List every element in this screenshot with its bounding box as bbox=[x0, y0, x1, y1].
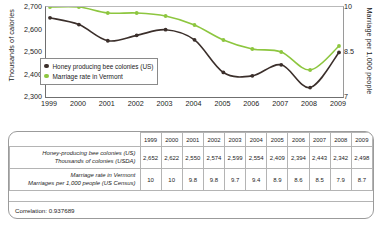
data-point bbox=[135, 33, 139, 37]
legend-label: Honey producing bee colonies (US) bbox=[53, 63, 154, 70]
table-cell: 9.8 bbox=[203, 169, 224, 191]
data-table: 1999200020012002200320042005200620072008… bbox=[9, 132, 373, 191]
legend-item-bee-colonies: Honey producing bee colonies (US) bbox=[44, 61, 153, 71]
legend-label: Marriage rate in Vermont bbox=[53, 73, 123, 80]
x-tick-label: 2007 bbox=[272, 99, 288, 108]
table-cell: 8.7 bbox=[351, 169, 372, 191]
table-cell: 2,498 bbox=[351, 147, 372, 169]
table-row: Honey-producing bee colonies (US)Thousan… bbox=[10, 147, 373, 169]
legend-dot-icon bbox=[44, 64, 49, 69]
table-year-header: 2004 bbox=[246, 133, 267, 147]
x-tick-label: 2008 bbox=[301, 99, 317, 108]
table-year-header: 2001 bbox=[182, 133, 203, 147]
table-cell: 2,550 bbox=[182, 147, 203, 169]
table-cell: 8.6 bbox=[288, 169, 309, 191]
x-tick-label: 2004 bbox=[186, 99, 202, 108]
data-point bbox=[77, 7, 81, 9]
left-tick-label: 2,300 bbox=[24, 92, 42, 101]
table-cell: 8.5 bbox=[309, 169, 330, 191]
data-point bbox=[164, 28, 168, 32]
data-point bbox=[308, 86, 312, 90]
right-axis-ticks: 78.510 bbox=[344, 0, 370, 100]
right-tick-label: 10 bbox=[344, 2, 352, 11]
table-year-header: 2009 bbox=[351, 133, 372, 147]
data-point bbox=[135, 11, 139, 15]
table-header-row: 1999200020012002200320042005200620072008… bbox=[10, 133, 373, 147]
left-tick-label: 2,600 bbox=[24, 25, 42, 34]
table-row-label: Honey-producing bee colonies (US)Thousan… bbox=[10, 147, 141, 169]
data-point bbox=[222, 71, 226, 75]
data-point bbox=[48, 7, 52, 9]
left-tick-label: 2,700 bbox=[24, 2, 42, 11]
x-tick-label: 2003 bbox=[157, 99, 173, 108]
data-point bbox=[164, 14, 168, 18]
data-point bbox=[250, 47, 254, 51]
data-point bbox=[193, 38, 197, 42]
data-table-card: 1999200020012002200320042005200620072008… bbox=[8, 131, 374, 219]
table-cell: 2,652 bbox=[140, 147, 161, 169]
data-point bbox=[106, 39, 110, 43]
table-year-header: 2003 bbox=[225, 133, 246, 147]
data-point bbox=[48, 16, 52, 20]
x-tick-label: 2002 bbox=[128, 99, 144, 108]
correlation-chart: Thousands of calories Marriage per 1,000… bbox=[0, 0, 380, 124]
table-year-header: 2006 bbox=[288, 133, 309, 147]
legend-item-marriage-rate: Marriage rate in Vermont bbox=[44, 71, 153, 81]
chart-legend: Honey producing bee colonies (US) Marria… bbox=[40, 58, 158, 85]
table-year-header: 1999 bbox=[140, 133, 161, 147]
table-cell: 2,443 bbox=[309, 147, 330, 169]
left-tick-label: 2,500 bbox=[24, 47, 42, 56]
data-point bbox=[193, 23, 197, 27]
x-tick-label: 2001 bbox=[99, 99, 115, 108]
data-point bbox=[106, 11, 110, 15]
table-row: Marriage rate in VermontMarriages per 1,… bbox=[10, 169, 373, 191]
table-corner-cell bbox=[10, 133, 141, 147]
table-cell: 10 bbox=[140, 169, 161, 191]
table-cell: 2,574 bbox=[203, 147, 224, 169]
table-cell: 2,554 bbox=[246, 147, 267, 169]
data-point bbox=[77, 23, 81, 27]
x-tick-label: 2000 bbox=[70, 99, 86, 108]
data-point bbox=[279, 63, 283, 67]
table-cell: 9.7 bbox=[225, 169, 246, 191]
table-row-label: Marriage rate in VermontMarriages per 1,… bbox=[10, 169, 141, 191]
table-year-header: 2008 bbox=[330, 133, 351, 147]
x-tick-label: 2005 bbox=[214, 99, 230, 108]
table-cell: 2,394 bbox=[288, 147, 309, 169]
table-cell: 2,599 bbox=[225, 147, 246, 169]
table-body: Honey-producing bee colonies (US)Thousan… bbox=[10, 147, 373, 191]
correlation-footer: Correlation: 0.937689 bbox=[9, 201, 373, 218]
table-cell: 2,342 bbox=[330, 147, 351, 169]
table-year-header: 2000 bbox=[161, 133, 182, 147]
data-point bbox=[222, 38, 226, 42]
table-cell: 9.8 bbox=[182, 169, 203, 191]
table-cell: 8.9 bbox=[267, 169, 288, 191]
data-point bbox=[279, 50, 283, 54]
table-cell: 9.4 bbox=[246, 169, 267, 191]
table-year-header: 2007 bbox=[309, 133, 330, 147]
x-tick-label: 2006 bbox=[243, 99, 259, 108]
table-cell: 10 bbox=[161, 169, 182, 191]
x-tick-label: 2009 bbox=[330, 99, 346, 108]
left-axis-ticks: 2,3002,4002,5002,6002,700 bbox=[12, 0, 42, 100]
table-cell: 2,409 bbox=[267, 147, 288, 169]
x-axis-ticks: 1999200020012002200320042005200620072008… bbox=[45, 99, 342, 113]
x-tick-label: 1999 bbox=[41, 99, 57, 108]
data-point bbox=[337, 51, 341, 55]
data-point bbox=[308, 68, 312, 72]
table-year-header: 2002 bbox=[203, 133, 224, 147]
table-cell: 7.9 bbox=[330, 169, 351, 191]
data-point bbox=[250, 74, 254, 78]
right-tick-label: 8.5 bbox=[344, 47, 354, 56]
data-point bbox=[337, 44, 341, 48]
table-cell: 2,622 bbox=[161, 147, 182, 169]
legend-dot-icon bbox=[44, 74, 49, 79]
table-year-header: 2005 bbox=[267, 133, 288, 147]
